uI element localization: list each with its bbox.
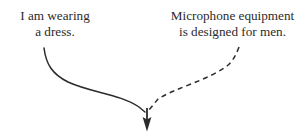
solid-arrow-path xyxy=(44,48,145,112)
dashed-arrow-path xyxy=(149,47,239,110)
diagram-canvas: I am wearing a dress. Microphone equipme… xyxy=(0,0,307,136)
arrow-layer xyxy=(0,0,307,136)
